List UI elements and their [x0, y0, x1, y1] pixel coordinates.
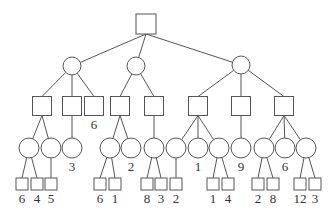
- tree-labels: 632196645618321428123: [19, 117, 319, 207]
- edge-k1-l1: [22, 158, 27, 178]
- square-node: [33, 97, 52, 116]
- square-node: [94, 178, 106, 190]
- chance-node: [296, 138, 316, 158]
- square-node: [294, 178, 306, 190]
- square-node: [222, 178, 234, 190]
- edge-sA-k1: [33, 116, 42, 139]
- chance-node: [100, 138, 120, 158]
- chance-node: [231, 138, 251, 158]
- chance-node: [121, 138, 141, 158]
- node-value-label: 6: [282, 159, 289, 174]
- edge-k6-l7: [156, 158, 161, 178]
- edge-k6-l6: [147, 158, 152, 178]
- node-value-label: 6: [97, 191, 104, 206]
- node-value-label: 2: [173, 191, 180, 206]
- edge-c2-sE: [141, 74, 154, 97]
- chance-node: [232, 56, 250, 74]
- node-value-label: 6: [19, 191, 26, 206]
- game-tree-diagram: 632196645618321428123: [0, 0, 332, 216]
- node-value-label: 4: [34, 191, 41, 206]
- edge-k11-l12: [267, 158, 273, 178]
- square-node: [109, 178, 121, 190]
- square-node: [309, 178, 321, 190]
- tree-nodes: [16, 14, 321, 190]
- edge-sD-k5: [120, 116, 128, 139]
- chance-node: [275, 138, 295, 158]
- square-node: [267, 178, 279, 190]
- square-node: [189, 97, 208, 116]
- node-value-label: 3: [158, 191, 165, 206]
- edge-root-c3: [146, 34, 232, 62]
- node-value-label: 8: [144, 191, 151, 206]
- node-value-label: 5: [48, 191, 55, 206]
- node-value-label: 1: [195, 159, 202, 174]
- edge-c1-sA: [42, 72, 66, 96]
- edge-root-c2: [139, 34, 146, 57]
- square-node: [170, 178, 182, 190]
- chance-node: [41, 138, 61, 158]
- square-node: [31, 178, 43, 190]
- chance-node: [19, 138, 39, 158]
- edge-k4-l5: [112, 158, 115, 178]
- chance-node: [144, 138, 164, 158]
- square-node: [252, 178, 264, 190]
- node-value-label: 6: [91, 117, 98, 132]
- edge-sF-k7: [182, 116, 198, 140]
- chance-node: [62, 138, 82, 158]
- chance-node: [166, 138, 186, 158]
- square-node: [85, 97, 104, 116]
- edge-c2-sD: [120, 74, 132, 97]
- square-node: [232, 97, 251, 116]
- square-node: [45, 178, 57, 190]
- square-node: [207, 178, 219, 190]
- square-node: [111, 97, 130, 116]
- edge-k4-l4: [100, 157, 107, 178]
- edge-sH-k11: [269, 116, 284, 140]
- chance-node: [209, 138, 229, 158]
- edge-k11-l11: [258, 158, 262, 178]
- node-value-label: 3: [69, 159, 76, 174]
- chance-node: [254, 138, 274, 158]
- edge-k9-l10: [222, 158, 228, 178]
- edge-k13-l14: [309, 158, 315, 178]
- edge-sH-k12: [284, 116, 285, 139]
- chance-node: [63, 57, 81, 75]
- edge-sA-k2: [42, 116, 48, 139]
- node-value-label: 2: [128, 159, 135, 174]
- edge-sD-k4: [113, 116, 120, 139]
- node-value-label: 12: [294, 191, 307, 206]
- chance-node: [127, 57, 145, 75]
- square-node: [141, 178, 153, 190]
- square-node: [63, 97, 82, 116]
- edge-c1-sC: [77, 73, 94, 96]
- root-max-node: [136, 14, 156, 34]
- node-value-label: 4: [225, 191, 232, 206]
- edge-k9-l9: [213, 158, 217, 178]
- node-value-label: 1: [210, 191, 217, 206]
- node-value-label: 2: [255, 191, 262, 206]
- square-node: [16, 178, 28, 190]
- node-value-label: 1: [112, 191, 119, 206]
- square-node: [145, 97, 164, 116]
- node-value-label: 9: [238, 159, 245, 174]
- edge-c3-sH: [248, 70, 284, 96]
- edge-sH-k13: [284, 116, 300, 140]
- node-value-label: 3: [312, 191, 319, 206]
- chance-node: [188, 138, 208, 158]
- square-node: [275, 97, 294, 116]
- square-node: [155, 178, 167, 190]
- edge-sF-k9: [198, 116, 214, 140]
- edge-k1-l2: [32, 158, 37, 178]
- edge-k13-l13: [300, 158, 304, 178]
- node-value-label: 8: [270, 191, 277, 206]
- edge-c3-sF: [198, 70, 234, 96]
